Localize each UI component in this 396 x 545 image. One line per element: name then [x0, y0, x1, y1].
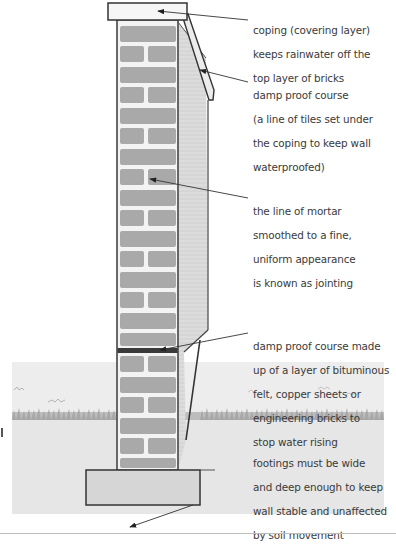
brick-wall: [117, 20, 178, 470]
label-jointing: the line of mortar smoothed to a fine, u…: [253, 193, 356, 301]
footing: [86, 470, 215, 505]
label-footings: footings must be wide and deep enough to…: [253, 445, 387, 545]
coping-block: [108, 3, 187, 20]
label-dpc-felt: damp proof course made up of a layer of …: [253, 328, 389, 460]
bottom-divider: [0, 533, 396, 534]
label-dpc-tiles: damp proof course (a line of tiles set u…: [253, 77, 373, 185]
dpc-felt-layer: [117, 348, 178, 353]
brick-courses: [120, 26, 176, 468]
page-margin-mark: [1, 428, 3, 437]
